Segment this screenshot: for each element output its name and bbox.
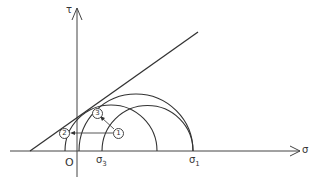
mohr-circle-large — [79, 94, 193, 151]
sigma3-sub: 3 — [102, 160, 106, 168]
tau-axis-label: τ — [66, 5, 72, 15]
sigma-axis-label: σ — [302, 145, 308, 155]
sigma3-label: σ3 — [96, 155, 107, 168]
point-1-marker: 1 — [113, 128, 124, 139]
origin-label: O — [65, 157, 74, 168]
point-3-marker: 3 — [92, 108, 103, 119]
mohr-diagram — [0, 0, 312, 184]
sigma1-label: σ1 — [189, 155, 200, 168]
arrowhead-1-to-2 — [70, 131, 75, 135]
mohr-circle-left — [65, 105, 157, 151]
point-2-marker: 2 — [59, 128, 70, 139]
sigma1-sub: 1 — [195, 160, 199, 168]
